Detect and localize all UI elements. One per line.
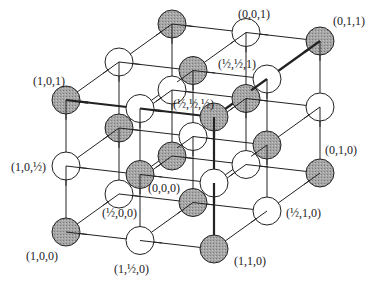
coordinate-label: (½,0,0) bbox=[102, 207, 137, 219]
coordinate-label: (0,0,1) bbox=[238, 8, 270, 20]
coordinate-label: (1,0,½) bbox=[11, 161, 46, 173]
coordinate-label: (1,0,1) bbox=[33, 75, 65, 87]
coordinate-label: (½,1,0) bbox=[286, 207, 321, 219]
lattice-diagram: (0,0,1)(0,1,1)(½,½,1)(1,0,1)(½,½,½)(1,0,… bbox=[0, 0, 372, 285]
coordinate-label: (1,0,0) bbox=[26, 250, 58, 262]
coordinate-label: (½,½,½) bbox=[173, 98, 214, 110]
coordinate-label: (1,½,0) bbox=[114, 263, 149, 275]
coordinate-label: (0,0,0) bbox=[148, 182, 180, 194]
coordinate-label: (0,1,0) bbox=[325, 144, 357, 156]
lattice-svg bbox=[0, 0, 372, 285]
coordinate-label: (0,1,1) bbox=[333, 15, 365, 27]
coordinate-label: (½,½,1) bbox=[218, 58, 256, 70]
shaded-atom bbox=[200, 235, 228, 263]
coordinate-label: (1,1,0) bbox=[234, 255, 266, 267]
lattice-atoms bbox=[52, 10, 334, 263]
